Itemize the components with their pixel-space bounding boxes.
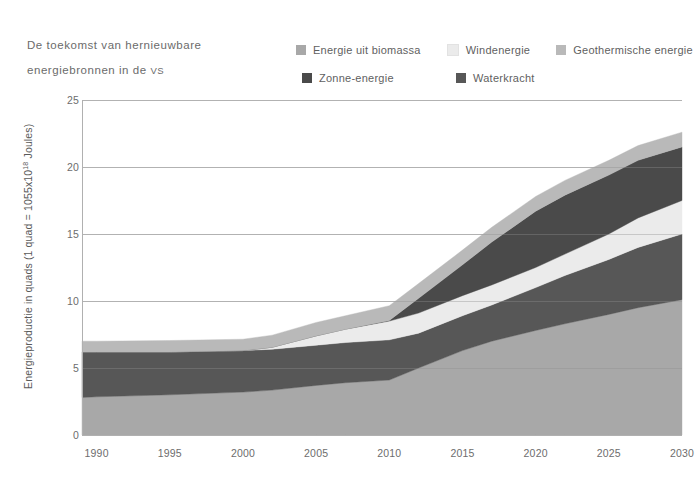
y-axis-title-post: Joules) (22, 124, 34, 162)
y-axis-ticks: 2520151050 (45, 0, 79, 483)
x-tick-label-2005: 2005 (286, 447, 346, 459)
y-axis-title-pre: Energieproductie in quads (1 quad = 1055… (22, 170, 34, 389)
y-tick-label-15: 15 (45, 228, 79, 240)
x-tick-label-2030: 2030 (652, 447, 699, 459)
x-tick-label-2020: 2020 (506, 447, 566, 459)
y-tick-label-5: 5 (45, 362, 79, 374)
x-tick-label-2000: 2000 (213, 447, 273, 459)
x-axis-ticks: 199019952000200520102015202020252030 (0, 447, 692, 467)
x-tick-label-2010: 2010 (359, 447, 419, 459)
x-tick-label-1995: 1995 (140, 447, 200, 459)
y-tick-label-10: 10 (45, 295, 79, 307)
y-tick-label-20: 20 (45, 161, 79, 173)
x-tick-label-2015: 2015 (432, 447, 492, 459)
y-axis-title-exponent: 18 (22, 162, 29, 170)
y-tick-label-25: 25 (45, 94, 79, 106)
x-tick-label-2025: 2025 (579, 447, 639, 459)
x-tick-label-1990: 1990 (67, 447, 127, 459)
y-tick-label-0: 0 (45, 429, 79, 441)
y-axis-title: Energieproductie in quads (1 quad = 1055… (22, 106, 35, 406)
